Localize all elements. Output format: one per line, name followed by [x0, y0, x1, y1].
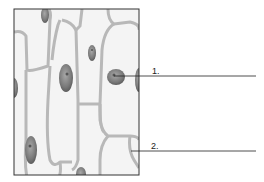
- nucleus-labeled: [107, 69, 125, 85]
- cell-diagram: [0, 0, 264, 182]
- label-1: 1.: [152, 66, 160, 76]
- label-2: 2.: [151, 141, 159, 151]
- microscope-field: [10, 6, 143, 182]
